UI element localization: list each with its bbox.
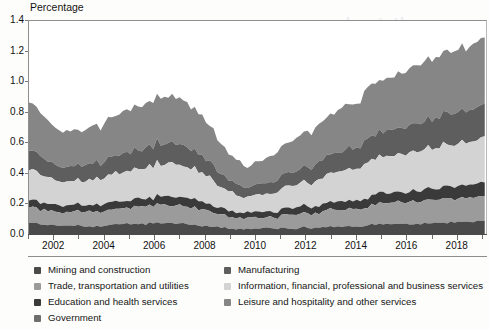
legend-item[interactable]: Mining and construction [34,264,229,276]
x-axis-minor-tick [78,235,79,239]
legend-item-label: Education and health services [48,296,177,308]
chart-figure: andnotthetheworkersofindustryworkers Per… [0,0,489,330]
y-axis-tick-label: 0.8 [0,106,24,117]
chart-legend: Mining and constructionTrade, transporta… [28,256,487,328]
legend-item[interactable]: Government [34,312,229,324]
x-axis-tick-label: 2006 [134,240,174,251]
x-axis-minor-tick [381,235,382,239]
legend-item-label: Trade, transportation and utilities [48,280,189,292]
legend-item-label: Government [48,312,101,324]
x-axis-tick-label: 2016 [386,240,426,251]
x-axis-tick-label: 2018 [437,240,477,251]
y-axis-tick-label: 0.0 [0,228,24,239]
y-axis-tick-label: 0.6 [0,136,24,147]
legend-item-label: Leisure and hospitality and other servic… [238,296,416,308]
y-axis-tick-label: 1.0 [0,75,24,86]
legend-swatch-icon [34,267,41,274]
x-axis-tick-label: 2002 [33,240,73,251]
legend-item[interactable]: Trade, transportation and utilities [34,280,229,292]
x-axis-minor-tick [280,235,281,239]
x-axis-minor-tick [230,235,231,239]
legend-swatch-icon [34,299,41,306]
x-axis-minor-tick [331,235,332,239]
legend-swatch-icon [34,283,41,290]
legend-item[interactable]: Education and health services [34,296,229,308]
y-axis-tick-label: 0.4 [0,167,24,178]
y-axis-tick-label: 1.4 [0,14,24,25]
legend-item[interactable]: Manufacturing [224,264,486,276]
x-axis-tick-label: 2010 [235,240,275,251]
legend-swatch-icon [224,299,231,306]
y-axis-tick-label: 0.2 [0,197,24,208]
x-axis-minor-tick [482,235,483,239]
x-axis-minor-tick [129,235,130,239]
stacked-area-plot [28,20,487,234]
legend-swatch-icon [224,283,231,290]
y-axis-title: Percentage [30,1,84,13]
x-axis-minor-tick [28,235,29,239]
x-axis-minor-tick [179,235,180,239]
area-series-svg [29,21,486,234]
legend-swatch-icon [34,315,41,322]
x-axis-tick-label: 2012 [285,240,325,251]
y-axis-tick-label: 1.2 [0,45,24,56]
legend-item[interactable]: Leisure and hospitality and other servic… [224,296,486,308]
x-axis-minor-tick [432,235,433,239]
legend-item-label: Information, financial, professional and… [238,280,483,292]
x-axis-tick-label: 2008 [185,240,225,251]
legend-swatch-icon [224,267,231,274]
legend-item-label: Mining and construction [48,264,150,276]
legend-column-left: Mining and constructionTrade, transporta… [34,264,229,328]
x-axis-line [28,234,487,235]
legend-column-right: ManufacturingInformation, financial, pro… [224,264,486,312]
legend-item[interactable]: Information, financial, professional and… [224,280,486,292]
x-axis-tick-label: 2004 [84,240,124,251]
legend-item-label: Manufacturing [238,264,299,276]
x-axis-tick-label: 2014 [336,240,376,251]
